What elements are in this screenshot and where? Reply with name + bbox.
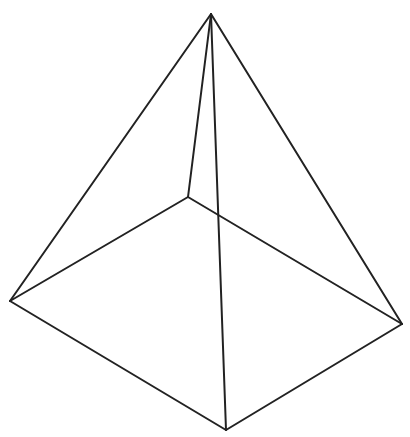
pyramid-edges: [10, 14, 402, 430]
pyramid-diagram: [0, 0, 410, 437]
edge-apex-to-base-front: [211, 14, 226, 430]
edge-base-right-to-base-front: [226, 324, 402, 430]
edge-apex-to-base-left: [10, 14, 211, 301]
edge-apex-to-base-right: [211, 14, 402, 324]
edge-base-front-to-base-left: [10, 301, 226, 430]
edge-base-left-to-base-back: [10, 197, 188, 301]
